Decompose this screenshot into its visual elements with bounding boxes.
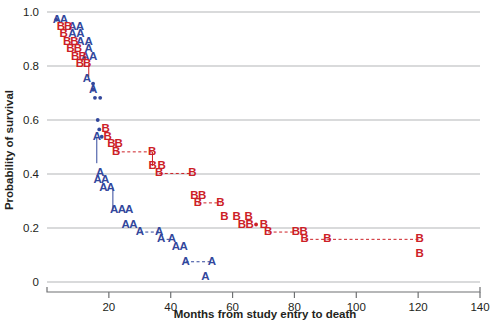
censored-point-marker bbox=[91, 82, 95, 86]
series-a-marker: A bbox=[136, 225, 144, 237]
survival-chart-svg: 00.20.40.60.81.0 20406080100120140 AAAAA… bbox=[0, 0, 499, 324]
series-b-marker: B bbox=[323, 232, 331, 244]
censored-point-marker bbox=[91, 88, 95, 92]
series-a-marker: A bbox=[107, 181, 115, 193]
data-markers-group: AAAAAAAAAAAAAAAAAAAAAAAAAAAAAAAAABBBBBBB… bbox=[53, 13, 424, 283]
x-tick-label: 140 bbox=[470, 301, 489, 313]
censored-point-marker bbox=[97, 128, 101, 132]
censored-point-marker bbox=[96, 118, 100, 122]
series-b-marker: B bbox=[148, 145, 156, 157]
series-b-marker: B bbox=[216, 196, 224, 208]
x-axis-title: Months from study entry to death bbox=[174, 308, 357, 320]
series-b-marker: B bbox=[155, 166, 163, 178]
series-b-marker: B bbox=[245, 218, 253, 230]
censored-point-marker bbox=[98, 96, 102, 100]
series-b-marker: B bbox=[300, 232, 308, 244]
axes-group bbox=[47, 287, 480, 292]
series-a-marker: A bbox=[181, 255, 189, 267]
survival-chart-figure: 00.20.40.60.81.0 20406080100120140 AAAAA… bbox=[0, 0, 499, 324]
y-tick-label: 0 bbox=[33, 276, 39, 288]
series-a-marker: A bbox=[93, 130, 101, 142]
y-tick-label: 0.4 bbox=[23, 168, 40, 180]
y-tick-label: 0.2 bbox=[23, 222, 39, 234]
censored-point-marker bbox=[54, 18, 58, 22]
series-b-marker: B bbox=[264, 225, 272, 237]
censored-point-marker bbox=[254, 223, 258, 227]
x-tick-label: 20 bbox=[102, 301, 115, 313]
x-tick-label: 120 bbox=[409, 301, 428, 313]
series-a-marker: A bbox=[157, 232, 165, 244]
y-tick-label: 0.8 bbox=[23, 60, 39, 72]
series-b-marker: B bbox=[188, 166, 196, 178]
series-a-marker: A bbox=[180, 240, 188, 252]
series-b-marker: B bbox=[112, 145, 120, 157]
x-axis-line bbox=[47, 287, 480, 292]
series-b-marker: B bbox=[194, 196, 202, 208]
y-tick-label: 0.6 bbox=[23, 114, 39, 126]
series-b-marker: B bbox=[416, 232, 424, 244]
ticks-group bbox=[109, 292, 480, 298]
series-a-marker: A bbox=[125, 203, 133, 215]
series-a-marker: A bbox=[201, 270, 209, 282]
censored-point-marker bbox=[100, 135, 104, 139]
series-b-marker: B bbox=[220, 210, 228, 222]
series-b-marker: B bbox=[83, 57, 91, 69]
y-tick-label: 1.0 bbox=[23, 6, 39, 18]
y-axis-title: Probability of survival bbox=[3, 90, 15, 210]
series-a-marker: A bbox=[208, 255, 216, 267]
series-b-marker: B bbox=[416, 247, 424, 259]
censored-point-marker bbox=[93, 96, 97, 100]
y-tick-labels-group: 00.20.40.60.81.0 bbox=[23, 6, 40, 288]
